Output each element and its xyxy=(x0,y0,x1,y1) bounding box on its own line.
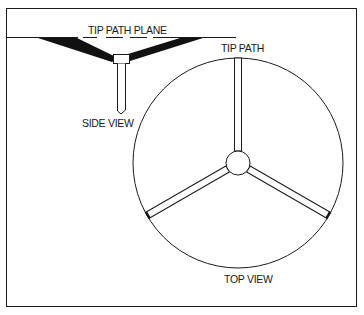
hub-block xyxy=(114,55,130,64)
top-view-caption: TOP VIEW xyxy=(224,273,273,285)
rotor-hub xyxy=(226,151,250,175)
tip-path-plane-label: TIP PATH PLANE xyxy=(88,24,167,36)
tip-path-label: TIP PATH xyxy=(221,42,264,54)
blade-top xyxy=(235,58,242,151)
right-blade xyxy=(128,38,203,61)
top-view: TIP PATH TOP VIEW xyxy=(133,42,343,285)
blade-lower-right xyxy=(247,166,331,219)
blade-lower-left xyxy=(145,166,229,219)
rotor-mast xyxy=(118,64,126,115)
side-view-caption: SIDE VIEW xyxy=(82,117,134,129)
side-view: TIP PATH PLANE SIDE VIEW xyxy=(7,24,236,129)
left-blade xyxy=(38,38,118,62)
rotor-diagram: TIP PATH PLANE SIDE VIEW TIP PATH xyxy=(0,0,364,315)
figure-frame xyxy=(7,9,357,307)
